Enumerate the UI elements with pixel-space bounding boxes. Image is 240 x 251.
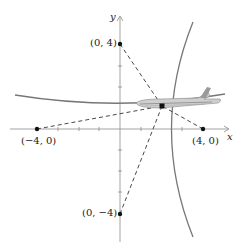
airplane-icon bbox=[136, 87, 221, 108]
label-4-0: (4, 0) bbox=[192, 135, 219, 146]
point-0-4 bbox=[118, 42, 122, 46]
label-0-4: (0, 4) bbox=[90, 37, 117, 48]
axes bbox=[10, 16, 229, 242]
y-axis-label: y bbox=[110, 11, 116, 22]
diagram-canvas bbox=[0, 0, 240, 251]
point-neg4-0 bbox=[35, 127, 39, 131]
label-neg4-0: (−4, 0) bbox=[21, 135, 56, 146]
aircraft-position-point bbox=[160, 104, 165, 109]
point-0-neg4 bbox=[118, 212, 122, 216]
label-0-neg4: (0, −4) bbox=[82, 207, 117, 218]
point-4-0 bbox=[201, 127, 205, 131]
x-axis-label: x bbox=[227, 131, 233, 142]
